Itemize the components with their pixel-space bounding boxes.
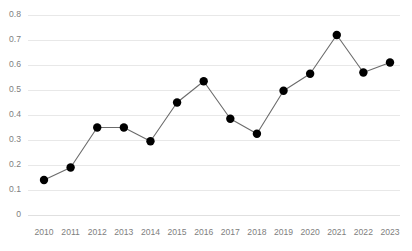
- x-tick-label: 2019: [274, 227, 293, 237]
- x-tick-label: 2014: [141, 227, 160, 237]
- x-tick-label: 2011: [61, 227, 80, 237]
- x-tick-label: 2015: [168, 227, 187, 237]
- y-tick-label: 0.5: [9, 84, 21, 94]
- data-point-marker: [66, 163, 74, 171]
- series-group: [40, 31, 394, 184]
- data-point-marker: [306, 70, 314, 78]
- data-point-marker: [120, 123, 128, 131]
- y-tick-label: 0.7: [9, 34, 21, 44]
- y-tick-label: 0.4: [9, 109, 21, 119]
- y-axis-tick-labels: 00.10.20.30.40.50.60.70.8: [9, 9, 21, 219]
- data-point-marker: [253, 130, 261, 138]
- x-tick-label: 2016: [194, 227, 213, 237]
- data-point-marker: [40, 176, 48, 184]
- series-line-path: [44, 35, 390, 180]
- x-tick-label: 2013: [114, 227, 133, 237]
- y-tick-label: 0.1: [9, 184, 21, 194]
- x-tick-label: 2012: [88, 227, 107, 237]
- data-point-marker: [226, 115, 234, 123]
- x-axis-tick-labels: 2010201120122013201420152016201720182019…: [34, 227, 399, 237]
- x-tick-label: 2018: [247, 227, 266, 237]
- data-point-marker: [359, 68, 367, 76]
- x-tick-label: 2020: [301, 227, 320, 237]
- x-tick-label: 2010: [34, 227, 53, 237]
- data-point-marker: [146, 137, 154, 145]
- data-point-marker: [386, 58, 394, 66]
- data-point-marker: [199, 77, 207, 85]
- line-chart: 00.10.20.30.40.50.60.70.8 20102011201220…: [0, 0, 412, 251]
- y-tick-label: 0: [16, 209, 21, 219]
- y-tick-label: 0.2: [9, 159, 21, 169]
- x-tick-label: 2021: [327, 227, 346, 237]
- data-point-marker: [93, 123, 101, 131]
- y-tick-label: 0.3: [9, 134, 21, 144]
- chart-canvas: 00.10.20.30.40.50.60.70.8 20102011201220…: [0, 0, 412, 251]
- x-tick-label: 2023: [380, 227, 399, 237]
- data-point-marker: [279, 87, 287, 95]
- series-markers-group: [40, 31, 394, 184]
- x-tick-label: 2022: [354, 227, 373, 237]
- data-point-marker: [333, 31, 341, 39]
- x-tick-label: 2017: [221, 227, 240, 237]
- data-point-marker: [173, 98, 181, 106]
- y-tick-label: 0.6: [9, 59, 21, 69]
- y-tick-label: 0.8: [9, 9, 21, 19]
